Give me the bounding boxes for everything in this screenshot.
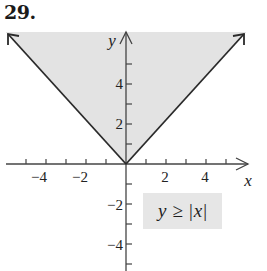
inequality-operator: ≥ xyxy=(172,200,182,222)
y-axis-label: y xyxy=(106,31,116,50)
x-tick-label: −4 xyxy=(31,169,47,185)
x-axis-label: x xyxy=(243,171,252,190)
x-tick-label: 2 xyxy=(161,169,169,185)
y-tick-label: −2 xyxy=(107,197,123,213)
inequality-rhs-var: x xyxy=(194,200,202,222)
inequality-lhs: y xyxy=(158,200,166,222)
abs-bar-left: | xyxy=(189,200,193,222)
x-tick-label: 4 xyxy=(201,169,209,185)
inequality-graph: −4 −2 2 4 4 2 −2 −4 x y xyxy=(0,0,267,271)
y-tick-label: 2 xyxy=(116,116,124,132)
x-tick-label: −2 xyxy=(72,169,88,185)
y-tick-label: −4 xyxy=(107,237,123,253)
abs-bar-right: | xyxy=(203,200,207,222)
y-tick-label: 4 xyxy=(116,76,124,92)
inequality-label: y ≥ | x | xyxy=(143,193,222,229)
